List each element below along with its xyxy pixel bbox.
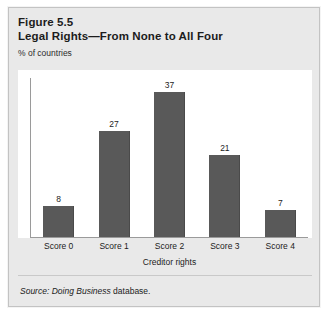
bar-value-label: 27 [109, 119, 118, 129]
bar-series: 8 27 37 21 7 [31, 70, 308, 237]
figure-container: Figure 5.5 Legal Rights—From None to All… [8, 7, 320, 307]
figure-number: Figure 5.5 [18, 15, 308, 29]
x-tick-label-score-4: Score 4 [253, 241, 308, 252]
y-axis-unit-label: % of countries [18, 48, 308, 59]
bar-group-score-3: 21 [197, 70, 252, 237]
x-tick-label-score-0: Score 0 [31, 241, 86, 252]
source-note: Source: Doing Business database. [20, 286, 150, 297]
x-axis-tick-labels: Score 0 Score 1 Score 2 Score 3 Score 4 [31, 241, 308, 252]
bar-value-label: 8 [56, 194, 61, 204]
figure-title: Legal Rights—From None to All Four [18, 29, 308, 43]
source-database: Doing Business [52, 286, 111, 296]
bar-group-score-1: 27 [87, 70, 142, 237]
source-tail: database. [113, 286, 150, 296]
bar-rect [43, 206, 74, 237]
bar-rect [209, 155, 240, 237]
x-tick-label-score-1: Score 1 [87, 241, 142, 252]
bar-group-score-0: 8 [31, 70, 86, 237]
x-axis-title: Creditor rights [31, 257, 308, 268]
bar-rect [99, 131, 130, 237]
x-tick-label-score-2: Score 2 [142, 241, 197, 252]
bar-group-score-2: 37 [142, 70, 197, 237]
bar-value-label: 37 [165, 80, 174, 90]
plot-area: 8 27 37 21 7 [18, 70, 312, 238]
source-label: Source: [20, 286, 49, 296]
bar-rect [265, 210, 296, 237]
bar-value-label: 21 [220, 143, 229, 153]
bar-rect [154, 92, 185, 237]
x-tick-label-score-3: Score 3 [197, 241, 252, 252]
footer-divider [18, 275, 312, 276]
bar-group-score-4: 7 [253, 70, 308, 237]
figure-header: Figure 5.5 Legal Rights—From None to All… [18, 15, 308, 59]
bar-value-label: 7 [278, 198, 283, 208]
x-axis-line [30, 237, 308, 238]
